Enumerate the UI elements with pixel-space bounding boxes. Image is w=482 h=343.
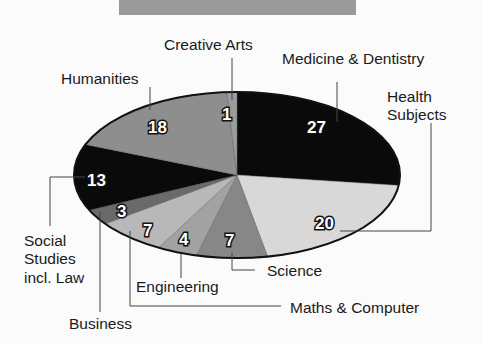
label-engineering: Engineering: [136, 278, 219, 295]
pie-slice-medicine-dentistry: [237, 92, 400, 185]
label-business: Business: [69, 315, 132, 332]
label-creative-arts: Creative Arts: [164, 36, 253, 53]
label-health-line1: Health: [387, 88, 432, 105]
pie-slices: [74, 92, 400, 258]
value-health: 20: [315, 214, 334, 233]
value-medicine: 27: [307, 118, 326, 137]
pie-chart: 1 27 18 13 3 7 4 7 20 Creative Arts Medi…: [0, 0, 482, 343]
label-maths: Maths & Computer: [290, 299, 419, 316]
label-social-line1: Social: [24, 232, 66, 249]
label-social-line3: incl. Law: [24, 269, 85, 286]
label-humanities: Humanities: [61, 70, 139, 87]
label-health-line2: Subjects: [387, 106, 447, 123]
value-business: 3: [117, 202, 126, 221]
label-science: Science: [267, 262, 322, 279]
value-science: 7: [225, 231, 234, 250]
label-social-line2: Studies: [24, 250, 76, 267]
value-creative-arts: 1: [222, 105, 231, 124]
value-engineering: 4: [179, 230, 189, 249]
label-medicine: Medicine & Dentistry: [282, 50, 424, 67]
value-humanities: 18: [148, 118, 167, 137]
value-social-studies: 13: [87, 171, 106, 190]
value-maths: 7: [143, 221, 152, 240]
